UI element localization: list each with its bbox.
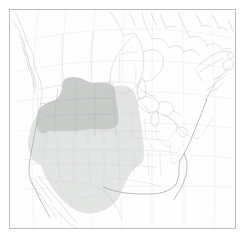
map-canvas[interactable] [0,0,245,242]
range-map-figure [0,0,245,242]
range-dark-region [36,77,118,133]
